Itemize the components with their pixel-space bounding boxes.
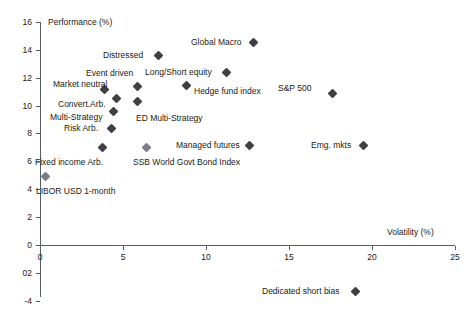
data-point-marker[interactable] bbox=[153, 50, 163, 60]
x-tick-label: 0 bbox=[25, 253, 55, 262]
data-point-label: Distressed bbox=[103, 51, 143, 61]
y-tick-label: 12 bbox=[6, 74, 32, 83]
y-tick-label: -4 bbox=[6, 297, 32, 306]
data-point-marker[interactable] bbox=[40, 171, 50, 181]
data-point-label: S&P 500 bbox=[278, 84, 311, 94]
x-tick-label: 25 bbox=[440, 253, 470, 262]
y-tick-mark bbox=[36, 50, 40, 51]
y-tick-mark bbox=[36, 106, 40, 107]
data-point-label: Global Macro bbox=[191, 38, 242, 48]
y-tick-label: 16 bbox=[6, 18, 32, 27]
data-point-label: ED Multi-Strategy bbox=[136, 114, 203, 124]
x-tick-mark bbox=[289, 246, 290, 250]
y-tick-label: 8 bbox=[6, 129, 32, 138]
data-point-marker[interactable] bbox=[358, 140, 368, 150]
data-point-marker[interactable] bbox=[350, 286, 360, 296]
data-point-marker[interactable] bbox=[244, 140, 254, 150]
data-point-label: Long/Short equity bbox=[145, 68, 212, 78]
data-point-marker[interactable] bbox=[327, 88, 337, 98]
data-point-label: Hedge fund index bbox=[194, 87, 261, 97]
data-point-marker[interactable] bbox=[132, 96, 142, 106]
data-point-label: Dedicated short bias bbox=[262, 287, 340, 297]
x-tick-label: 15 bbox=[274, 253, 304, 262]
data-point-marker[interactable] bbox=[111, 93, 121, 103]
data-point-marker[interactable] bbox=[106, 123, 116, 133]
y-tick-label: 6 bbox=[6, 157, 32, 166]
data-point-marker[interactable] bbox=[108, 106, 118, 116]
data-point-marker[interactable] bbox=[181, 80, 191, 90]
data-point-label: Market neutral bbox=[53, 80, 107, 90]
y-tick-mark bbox=[36, 217, 40, 218]
x-axis-line bbox=[40, 245, 455, 246]
x-tick-label: 5 bbox=[108, 253, 138, 262]
y-tick-mark bbox=[36, 22, 40, 23]
x-tick-mark bbox=[123, 246, 124, 250]
data-point-label: Convert.Arb. bbox=[58, 100, 106, 110]
y-tick-label: 0 bbox=[6, 241, 32, 250]
x-tick-mark bbox=[372, 246, 373, 250]
y-tick-mark bbox=[36, 301, 40, 302]
scatter-chart: Performance (%) Volatility (%) 161412108… bbox=[0, 0, 470, 321]
data-point-marker[interactable] bbox=[141, 142, 151, 152]
y-tick-label: 2 bbox=[6, 213, 32, 222]
plot-area: Performance (%) Volatility (%) 161412108… bbox=[0, 0, 470, 321]
x-tick-mark bbox=[40, 246, 41, 250]
y-tick-label: 02 bbox=[6, 269, 32, 278]
data-point-label: LIBOR USD 1-month bbox=[36, 187, 115, 197]
y-axis-title: Performance (%) bbox=[48, 18, 112, 27]
x-tick-label: 20 bbox=[357, 253, 387, 262]
data-point-label: Multi-Strategy bbox=[50, 113, 102, 123]
data-point-marker[interactable] bbox=[248, 37, 258, 47]
y-tick-label: 10 bbox=[6, 102, 32, 111]
x-tick-mark bbox=[455, 246, 456, 250]
x-tick-label: 10 bbox=[191, 253, 221, 262]
data-point-label: SSB World Govt Bond Index bbox=[133, 158, 229, 168]
y-tick-mark bbox=[36, 133, 40, 134]
x-axis-title: Volatility (%) bbox=[387, 228, 434, 237]
y-tick-label: 14 bbox=[6, 46, 32, 55]
data-point-label: Emg. mkts bbox=[311, 141, 351, 151]
data-point-marker[interactable] bbox=[97, 142, 107, 152]
data-point-label: Risk Arb. bbox=[64, 124, 98, 134]
data-point-marker[interactable] bbox=[221, 67, 231, 77]
y-tick-label: 4 bbox=[6, 185, 32, 194]
x-tick-mark bbox=[206, 246, 207, 250]
y-tick-mark bbox=[36, 273, 40, 274]
data-point-label: Event driven bbox=[86, 69, 133, 79]
data-point-label: Managed futures bbox=[176, 141, 240, 151]
data-point-marker[interactable] bbox=[132, 81, 142, 91]
y-tick-mark bbox=[36, 78, 40, 79]
data-point-label: Fixed income Arb. bbox=[35, 158, 103, 168]
